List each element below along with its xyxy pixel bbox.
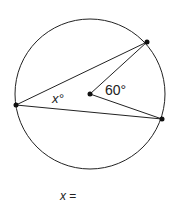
circle-diagram: x° 60°: [0, 0, 174, 208]
answer-variable: x: [60, 189, 66, 203]
point-bottom-right: [160, 117, 165, 122]
answer-equals: =: [69, 189, 76, 203]
point-top-right: [145, 40, 150, 45]
chord-left-bottom: [16, 105, 162, 119]
answer-prompt: x =: [60, 189, 76, 203]
point-left: [14, 103, 19, 108]
point-center: [88, 92, 93, 97]
central-angle-label: 60°: [105, 82, 126, 98]
chord-left-top: [16, 42, 147, 105]
inscribed-angle-label: x°: [51, 91, 64, 106]
